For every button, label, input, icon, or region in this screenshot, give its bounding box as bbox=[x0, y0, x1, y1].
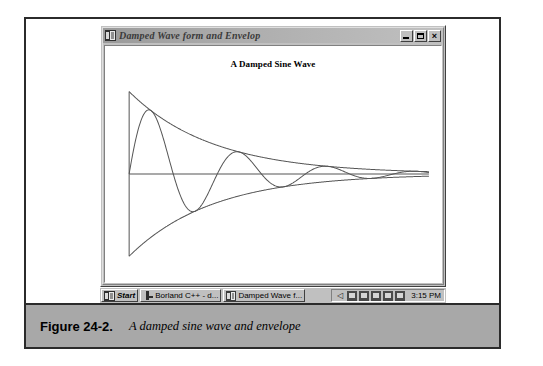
close-icon: × bbox=[432, 31, 437, 41]
start-label: Start bbox=[117, 291, 135, 300]
system-tray: ◁ 3:15 PM bbox=[331, 289, 445, 302]
upper-envelope-curve bbox=[129, 92, 429, 172]
taskbar-item-label: Borland C++ - d... bbox=[155, 291, 218, 300]
taskbar-item-damped-wave[interactable]: Damped Wave f... bbox=[223, 289, 305, 302]
close-button[interactable]: × bbox=[428, 30, 441, 42]
application-window: Damped Wave form and Envelop × A Damped … bbox=[100, 25, 446, 287]
plot-client-area: A Damped Sine Wave bbox=[104, 45, 442, 283]
battery-icon[interactable] bbox=[395, 291, 405, 301]
damped-sine-wave-plot bbox=[105, 46, 441, 282]
screenshot-region: Damped Wave form and Envelop × A Damped … bbox=[26, 19, 499, 303]
window-title: Damped Wave form and Envelop bbox=[119, 30, 400, 41]
clock[interactable]: 3:15 PM bbox=[411, 291, 441, 300]
display-icon[interactable] bbox=[347, 291, 357, 301]
wave-app-icon bbox=[226, 291, 236, 301]
printer-icon[interactable] bbox=[383, 291, 393, 301]
plot-axes bbox=[129, 92, 429, 257]
window-icon bbox=[105, 30, 116, 41]
windows-logo-icon bbox=[104, 291, 115, 301]
figure-panel: Damped Wave form and Envelop × A Damped … bbox=[24, 17, 501, 349]
maximize-icon bbox=[417, 33, 424, 39]
taskbar: Start Borland C++ - d... Damped Wave f..… bbox=[100, 287, 446, 303]
figure-caption: A damped sine wave and envelope bbox=[129, 319, 301, 334]
title-bar[interactable]: Damped Wave form and Envelop × bbox=[103, 28, 443, 43]
minimize-button[interactable] bbox=[400, 30, 413, 42]
figure-number: Figure 24-2. bbox=[40, 319, 113, 334]
taskbar-item-label: Damped Wave f... bbox=[238, 291, 302, 300]
window-controls: × bbox=[400, 30, 441, 42]
taskbar-item-borland[interactable]: Borland C++ - d... bbox=[140, 289, 221, 302]
network-icon[interactable] bbox=[359, 291, 369, 301]
modem-icon[interactable] bbox=[371, 291, 381, 301]
borland-icon bbox=[143, 291, 153, 301]
maximize-button[interactable] bbox=[414, 30, 427, 42]
minimize-icon bbox=[403, 37, 409, 39]
figure-caption-band: Figure 24-2. A damped sine wave and enve… bbox=[26, 303, 499, 347]
lower-envelope-curve bbox=[129, 176, 429, 256]
speaker-icon[interactable]: ◁ bbox=[335, 291, 345, 301]
start-button[interactable]: Start bbox=[101, 289, 138, 302]
